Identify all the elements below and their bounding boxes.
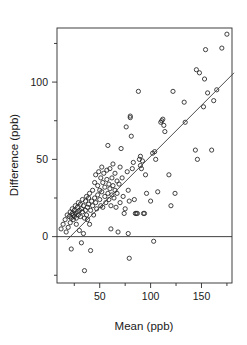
data-point — [81, 231, 85, 235]
x-tick-label: 150 — [193, 290, 211, 302]
data-point — [87, 222, 91, 226]
data-point — [195, 157, 199, 161]
y-tick-label: 100 — [30, 76, 48, 88]
data-point — [144, 191, 148, 195]
data-point — [210, 148, 214, 152]
data-point — [63, 218, 67, 222]
data-point — [88, 248, 92, 252]
regression-line — [67, 73, 234, 240]
axis-frame-group — [57, 28, 232, 283]
data-point — [118, 201, 122, 205]
data-point — [106, 143, 110, 147]
data-point — [123, 207, 127, 211]
x-axis-title: Mean (ppb) — [115, 320, 174, 332]
data-point — [101, 180, 105, 184]
data-point — [220, 46, 224, 50]
data-point — [127, 256, 131, 260]
data-point — [203, 48, 207, 52]
data-point — [132, 197, 136, 201]
data-point — [110, 176, 114, 180]
data-point — [171, 89, 175, 93]
data-point — [111, 162, 115, 166]
data-point — [96, 184, 100, 188]
y-tick-label: 0 — [42, 230, 48, 242]
data-point — [99, 176, 103, 180]
y-axis-title: Difference (ppb) — [8, 114, 20, 196]
data-point — [96, 193, 100, 197]
tick-labels-group: 50100150050100 — [30, 76, 210, 302]
data-point — [88, 208, 92, 212]
data-point — [149, 199, 153, 203]
data-point — [107, 182, 111, 186]
data-point — [69, 247, 73, 251]
data-point — [126, 188, 130, 192]
scatter-plot-figure: 50100150050100 Mean (ppb) Difference (pp… — [0, 0, 247, 345]
data-point — [167, 173, 171, 177]
data-point — [163, 129, 167, 133]
data-point — [59, 227, 63, 231]
data-point — [94, 201, 98, 205]
data-point — [122, 211, 126, 215]
data-point — [97, 170, 101, 174]
plot-frame-border — [57, 28, 232, 283]
data-point — [136, 89, 140, 93]
data-point — [131, 160, 135, 164]
data-point — [119, 146, 123, 150]
x-tick-label: 50 — [94, 290, 106, 302]
data-point — [61, 222, 65, 226]
data-point — [64, 230, 68, 234]
data-point — [143, 173, 147, 177]
data-point — [120, 176, 124, 180]
data-point — [74, 222, 78, 226]
data-point — [121, 194, 125, 198]
data-point — [202, 77, 206, 81]
y-tick-label: 50 — [36, 153, 48, 165]
data-point — [114, 205, 118, 209]
data-point — [106, 191, 110, 195]
data-point — [79, 241, 83, 245]
data-point — [225, 32, 229, 36]
data-point — [103, 185, 107, 189]
data-point — [182, 100, 186, 104]
data-point — [105, 177, 109, 181]
data-point — [173, 191, 177, 195]
data-point — [112, 196, 116, 200]
data-point — [129, 134, 133, 138]
data-point — [66, 225, 70, 229]
data-point — [169, 204, 173, 208]
data-point — [197, 71, 201, 75]
data-point — [212, 99, 216, 103]
data-point — [130, 167, 134, 171]
data-point — [124, 125, 128, 129]
tick-marks-group — [52, 43, 227, 288]
data-point — [127, 199, 131, 203]
data-point — [98, 197, 102, 201]
data-point — [118, 165, 122, 169]
data-point — [156, 190, 160, 194]
data-point — [111, 184, 115, 188]
data-point — [116, 230, 120, 234]
data-point — [82, 269, 86, 273]
data-point — [126, 231, 130, 235]
data-point — [205, 91, 209, 95]
data-point — [91, 188, 95, 192]
data-point — [117, 182, 121, 186]
x-tick-label: 100 — [142, 290, 160, 302]
data-point — [152, 239, 156, 243]
regression-line-group — [67, 73, 234, 240]
data-point — [125, 170, 129, 174]
data-point — [193, 148, 197, 152]
plot-canvas: 50100150050100 Mean (ppb) Difference (pp… — [0, 0, 247, 345]
data-point — [109, 204, 113, 208]
data-point — [109, 227, 113, 231]
data-point — [113, 171, 117, 175]
data-point — [154, 157, 158, 161]
data-point — [84, 213, 88, 217]
data-point — [100, 165, 104, 169]
data-point — [162, 123, 166, 127]
